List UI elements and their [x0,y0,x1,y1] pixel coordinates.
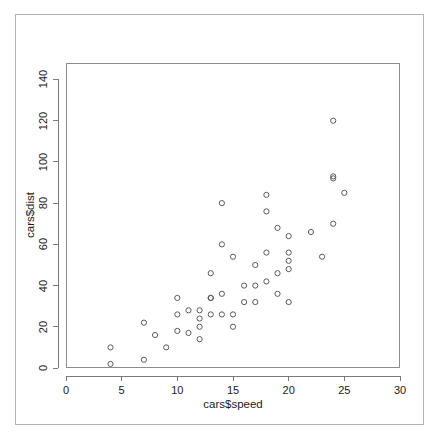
data-point [253,299,258,304]
data-point [275,225,280,230]
data-point [253,283,258,288]
data-point [197,308,202,313]
x-tick-label: 25 [338,384,350,396]
x-tick-label: 30 [394,384,406,396]
data-point [242,283,247,288]
data-point [253,262,258,267]
data-point [264,250,269,255]
data-point [175,312,180,317]
data-point [242,299,247,304]
data-point [286,250,291,255]
data-point [208,271,213,276]
x-axis-title: cars$speed [203,398,262,410]
data-point [331,221,336,226]
data-point [230,324,235,329]
data-point [108,345,113,350]
x-tick-label: 20 [283,384,295,396]
y-tick-label: 40 [37,279,49,291]
data-point [219,201,224,206]
data-point [186,330,191,335]
data-point [152,332,157,337]
y-tick-label: 120 [37,112,49,130]
data-point [286,234,291,239]
data-point [286,266,291,271]
y-tick-label: 20 [37,321,49,333]
scatter-plot-svg [0,0,436,441]
data-point [141,320,146,325]
data-point [264,279,269,284]
data-point [208,295,213,300]
data-point [286,258,291,263]
x-tick-label: 15 [227,384,239,396]
data-point [197,337,202,342]
y-tick-label: 100 [37,153,49,171]
y-tick-label: 0 [37,365,49,371]
y-axis-title: cars$dist [24,192,36,238]
data-point [342,190,347,195]
data-point [230,312,235,317]
data-point [286,299,291,304]
y-tick-label: 80 [37,197,49,209]
r-plot-screenshot: 051015202530 020406080100120140 cars$spe… [0,0,436,441]
data-point [186,308,191,313]
data-point [208,312,213,317]
data-point [264,192,269,197]
data-point [175,295,180,300]
data-point [141,357,146,362]
x-tick-label: 5 [119,384,125,396]
data-point [331,118,336,123]
data-point [219,312,224,317]
data-point [219,291,224,296]
data-point [275,291,280,296]
data-point [164,345,169,350]
x-tick-label: 10 [171,384,183,396]
data-point [230,254,235,259]
data-point [219,242,224,247]
data-point [175,328,180,333]
data-point [197,316,202,321]
y-axis [53,79,58,368]
y-tick-label: 140 [37,70,49,88]
y-tick-label: 60 [37,238,49,250]
data-point [197,324,202,329]
data-point [319,254,324,259]
data-point [308,229,313,234]
data-point [264,209,269,214]
data-point [275,271,280,276]
data-points-group [108,118,347,366]
data-point [108,361,113,366]
x-axis [66,376,400,381]
x-tick-label: 0 [63,384,69,396]
